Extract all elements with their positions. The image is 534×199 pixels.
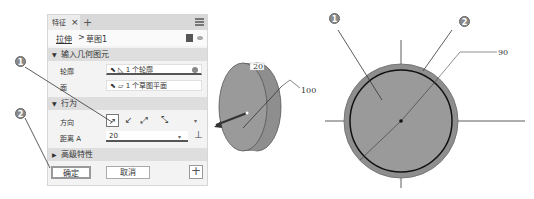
diameter-dimension-2d: 90 [498,48,508,57]
sketch-circle-2d [325,30,525,188]
callout-1-sketch: 1 [329,13,340,24]
callout-2-sketch: 2 [459,16,470,27]
illustration-canvas: 20 100 90 [0,0,534,199]
diameter-dimension-3d: 100 [301,86,316,95]
extruded-disk-3d [214,63,300,151]
depth-dimension: 20 [253,62,263,71]
